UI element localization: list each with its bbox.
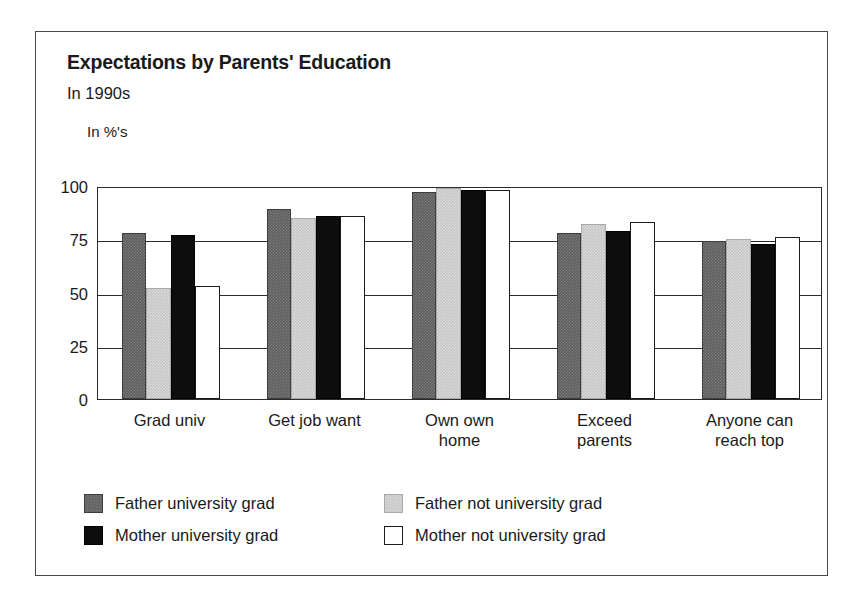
y-tick-label-75: 75 <box>42 231 88 250</box>
legend-label: Father not university grad <box>415 494 602 513</box>
bar <box>606 231 631 399</box>
y-tick-label-100: 100 <box>42 178 88 197</box>
legend-label: Father university grad <box>115 494 275 513</box>
legend-item[interactable]: Mother not university grad <box>384 526 606 545</box>
white-swatch <box>384 526 403 545</box>
legend-item[interactable]: Father university grad <box>84 494 275 513</box>
bar <box>726 239 751 399</box>
x-axis-category-label: Own own home <box>387 410 532 450</box>
bar <box>122 233 147 399</box>
bar <box>146 288 171 399</box>
bar <box>291 218 316 399</box>
bar <box>485 190 510 399</box>
x-axis-category-label: Anyone can reach top <box>677 410 822 450</box>
y-tick-label-25: 25 <box>42 337 88 356</box>
bar-group <box>678 188 823 399</box>
bar-group <box>533 188 678 399</box>
bar-group <box>388 188 533 399</box>
y-tick-label-0: 0 <box>42 391 88 410</box>
bar <box>340 216 365 399</box>
bar <box>557 233 582 399</box>
x-axis-category-label: Exceed parents <box>532 410 677 450</box>
bar <box>195 286 220 399</box>
bar <box>630 222 655 399</box>
chart-figure: Expectations by Parents' Education In 19… <box>35 31 828 576</box>
bar <box>412 192 437 399</box>
bar <box>267 209 292 399</box>
y-tick-label-50: 50 <box>42 284 88 303</box>
light-gray-swatch <box>384 494 403 513</box>
bar <box>436 188 461 399</box>
bar-group <box>243 188 388 399</box>
bar <box>461 190 486 399</box>
bar-group <box>98 188 243 399</box>
dark-gray-swatch <box>84 494 103 513</box>
legend-item[interactable]: Mother university grad <box>84 526 278 545</box>
bar <box>316 216 341 399</box>
legend-label: Mother university grad <box>115 526 278 545</box>
black-swatch <box>84 526 103 545</box>
y-axis-tick-labels: 0255075100 <box>36 187 88 400</box>
legend-item[interactable]: Father not university grad <box>384 494 602 513</box>
x-axis-category-label: Grad univ <box>97 410 242 430</box>
bar <box>171 235 196 399</box>
bar <box>702 241 727 399</box>
plot-area <box>97 187 822 400</box>
bar <box>581 224 606 399</box>
legend-label: Mother not university grad <box>415 526 606 545</box>
bar <box>751 244 776 399</box>
x-axis-category-label: Get job want <box>242 410 387 430</box>
bar <box>775 237 800 399</box>
